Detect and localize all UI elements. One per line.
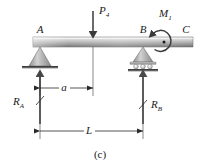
applied-load-P4: P4 bbox=[93, 4, 110, 32]
figure-caption: (c) bbox=[94, 148, 107, 161]
dim-label-L: L bbox=[85, 124, 92, 136]
support-triangle-A bbox=[29, 47, 51, 66]
ground-bar-A bbox=[22, 66, 58, 69]
diagram-canvas: A B C P4 M1 bbox=[0, 0, 200, 167]
support-triangle-B bbox=[133, 47, 153, 62]
moment-center-dot-M1 bbox=[163, 41, 166, 44]
moment-label-M1: M1 bbox=[158, 7, 172, 22]
point-label-C: C bbox=[182, 23, 190, 35]
roller-2 bbox=[141, 64, 146, 69]
reaction-label-RA: RA bbox=[12, 95, 25, 110]
beam bbox=[33, 37, 193, 47]
dimension-L: L bbox=[40, 124, 143, 139]
reaction-RB: RB bbox=[139, 76, 163, 124]
roller-top-plate-B bbox=[130, 62, 156, 64]
beam-free-body-diagram: A B C P4 M1 bbox=[0, 0, 200, 167]
roller-1 bbox=[134, 64, 139, 69]
reaction-label-RB: RB bbox=[150, 98, 163, 113]
roller-support-B bbox=[128, 47, 158, 72]
ground-bar-B bbox=[128, 69, 158, 72]
pin-support-A bbox=[22, 47, 58, 73]
point-label-B: B bbox=[140, 23, 147, 35]
load-label-P4: P4 bbox=[98, 4, 110, 19]
dim-label-a: a bbox=[61, 81, 67, 93]
roller-3 bbox=[148, 64, 153, 69]
reaction-RA: RA bbox=[12, 76, 44, 124]
point-label-A: A bbox=[36, 23, 44, 35]
